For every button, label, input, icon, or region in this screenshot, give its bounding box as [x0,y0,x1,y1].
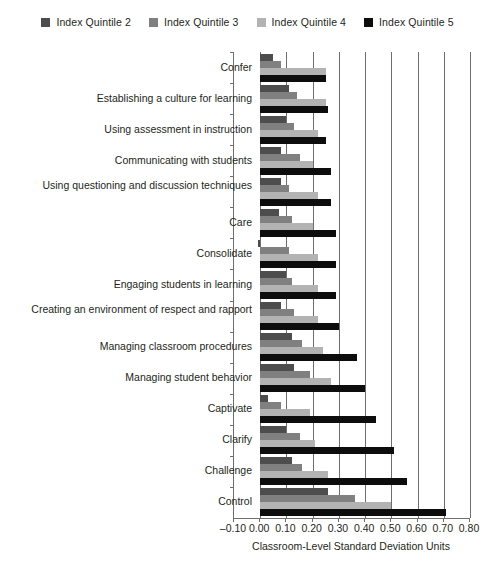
bar-0 [260,116,286,123]
x-tick-mark [443,518,444,522]
bar-1 [260,402,281,409]
bar-2 [260,347,323,354]
category-label: Establishing a culture for learning [20,92,252,104]
row-tick [230,269,234,270]
x-tick-label: 0.00 [249,522,269,534]
bar-2 [260,409,310,416]
bar-2 [260,161,312,168]
category-label: Clarify [20,433,252,445]
legend-item[interactable]: Index Quintile 4 [257,16,347,28]
bar-0 [260,85,289,92]
category-label: Communicating with students [20,154,252,166]
legend-label: Index Quintile 2 [56,16,131,28]
row-tick [230,425,234,426]
row-tick [230,487,234,488]
row-tick [230,394,234,395]
row-tick [230,332,234,333]
x-tick-mark [417,518,418,522]
row-tick [230,176,234,177]
category-label: Care [20,216,252,228]
bar-2 [260,502,391,509]
bar-3 [260,292,336,299]
bar-2 [260,440,315,447]
bar-0 [260,364,294,371]
row-tick [230,301,234,302]
legend-swatch-icon [364,18,373,27]
x-tick-labels: –0.100.000.100.200.300.400.500.600.700.8… [0,522,495,536]
bar-1 [260,247,289,254]
bar-1 [260,464,302,471]
bar-3 [260,261,336,268]
category-label: Creating an environment of respect and r… [20,303,252,315]
bar-3 [260,168,331,175]
row-tick [230,238,234,239]
legend-item[interactable]: Index Quintile 5 [364,16,454,28]
bar-1 [260,92,297,99]
chart-legend: Index Quintile 2Index Quintile 3Index Qu… [0,16,495,28]
bar-2 [260,68,326,75]
bar-0 [260,178,281,185]
legend-item[interactable]: Index Quintile 2 [41,16,131,28]
category-label: Using questioning and discussion techniq… [20,179,252,191]
bar-1 [260,433,299,440]
x-tick-label: 0.20 [301,522,321,534]
x-tick-mark [259,518,260,522]
category-label: Managing student behavior [20,371,252,383]
bar-2 [260,99,326,106]
x-axis-title: Classroom-Level Standard Deviation Units [233,540,469,552]
bar-1 [260,495,354,502]
bar-3 [260,509,446,516]
bar-3 [260,230,336,237]
legend-label: Index Quintile 4 [272,16,347,28]
row-tick [230,145,234,146]
category-label: Consolidate [20,247,252,259]
bar-3 [260,354,357,361]
legend-item[interactable]: Index Quintile 3 [149,16,239,28]
legend-swatch-icon [149,18,158,27]
bar-2 [260,130,318,137]
x-tick-label: 0.10 [275,522,295,534]
category-label: Using assessment in instruction [20,123,252,135]
x-tick-label: 0.80 [459,522,479,534]
x-tick-label: –0.10 [220,522,246,534]
bar-chart: Index Quintile 2Index Quintile 3Index Qu… [0,0,495,578]
bar-0 [260,147,281,154]
row-tick [230,456,234,457]
bar-3 [260,137,326,144]
gridline [418,52,419,518]
category-label: Confer [20,61,252,73]
row-tick [230,52,234,53]
bar-0 [260,302,281,309]
bar-2 [260,378,331,385]
bar-1 [260,61,281,68]
bar-3 [260,199,331,206]
bar-3 [260,416,375,423]
x-tick-mark [364,518,365,522]
bar-0 [260,426,286,433]
row-tick [230,363,234,364]
legend-label: Index Quintile 3 [164,16,239,28]
bar-3 [260,75,326,82]
plot-area [233,52,470,519]
category-label: Captivate [20,402,252,414]
bar-0 [260,271,286,278]
row-tick [230,83,234,84]
bar-2 [260,254,318,261]
x-tick-mark [233,518,234,522]
bar-2 [260,471,328,478]
x-tick-mark [469,518,470,522]
bar-0 [260,457,291,464]
category-label: Engaging students in learning [20,278,252,290]
bar-0 [260,209,278,216]
axis-right [470,52,471,518]
bar-1 [260,278,291,285]
x-tick-label: 0.40 [354,522,374,534]
category-label: Control [20,495,252,507]
row-tick [230,114,234,115]
x-tick-mark [390,518,391,522]
bar-3 [260,323,339,330]
bar-0 [260,333,291,340]
x-tick-mark [312,518,313,522]
bar-1 [260,185,289,192]
bar-1 [260,340,302,347]
